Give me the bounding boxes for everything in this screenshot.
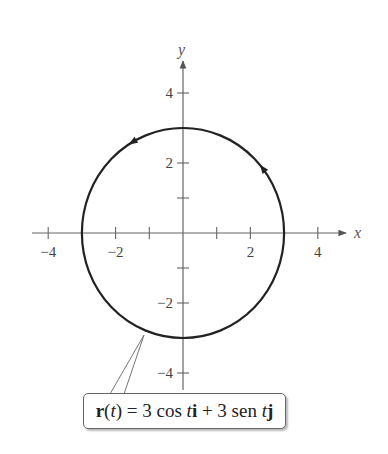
x-tick-label: 4 [314,244,322,260]
callout-eq: ) = 3 cos [116,400,187,422]
x-tick-label: −4 [40,244,56,260]
axes [32,61,346,390]
direction-arrow-icon [129,137,139,145]
callout-pointer [110,335,144,394]
direction-arrows [129,137,269,174]
y-tick-label: 4 [166,85,174,101]
y-tick-label: 2 [166,155,174,171]
y-tick-label: −2 [157,295,173,311]
x-axis-label: x [353,224,361,241]
callout-pointer-shape [110,335,144,394]
y-tick-label: −4 [157,365,173,381]
y-axis-label: y [176,41,186,59]
callout-j: j [267,400,273,422]
equation-callout: r(t) = 3 cos ti + 3 sen tj [83,393,286,429]
callout-r: r [96,400,104,422]
plot-area: −4−224−4−224 x y [0,0,388,454]
x-tick-label: −2 [108,244,124,260]
x-tick-label: 2 [247,244,255,260]
callout-plus: + 3 sen [197,400,262,422]
